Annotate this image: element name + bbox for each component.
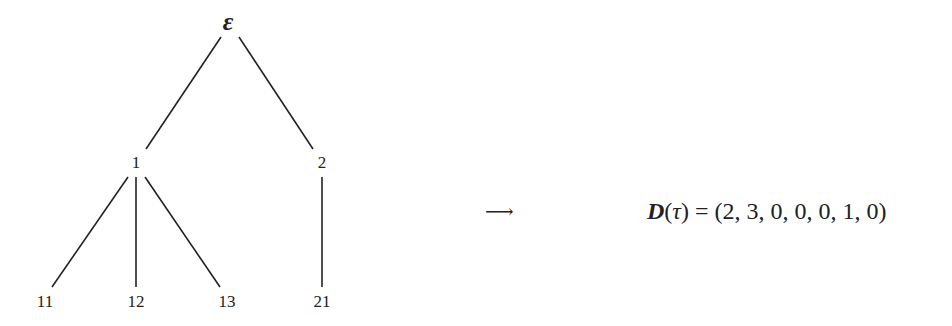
edge-1-to-11: [52, 177, 128, 287]
tree-node-11: 11: [37, 292, 53, 312]
formula-value: (2, 3, 0, 0, 0, 1, 0): [714, 198, 886, 224]
formula-function-name: D: [647, 198, 664, 224]
tree-node-21: 21: [314, 292, 331, 312]
edge-root-to-1: [146, 37, 221, 149]
tree-node-1: 1: [132, 153, 141, 173]
formula-equals: =: [689, 198, 715, 224]
edge-root-to-2: [239, 37, 313, 149]
degree-sequence-formula: D(τ) = (2, 3, 0, 0, 0, 1, 0): [647, 198, 886, 225]
formula-argument: τ: [672, 198, 681, 224]
maps-to-arrow-icon: ⟶: [485, 199, 514, 223]
tree-node-13: 13: [219, 292, 236, 312]
tree-node-12: 12: [128, 292, 145, 312]
tree-edges: [0, 0, 952, 326]
edge-1-to-13: [145, 177, 220, 287]
tree-node-2: 2: [318, 153, 327, 173]
formula-close-paren: ): [681, 198, 689, 224]
tree-root-epsilon: ε: [223, 7, 234, 37]
